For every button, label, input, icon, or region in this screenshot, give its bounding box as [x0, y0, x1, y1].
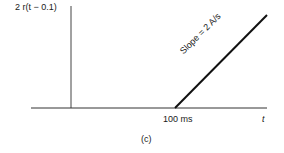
figure-caption: (c) — [141, 134, 152, 144]
y-axis-label: 2 r(t − 0.1) — [15, 2, 57, 12]
x-tick-label: 100 ms — [163, 114, 193, 124]
ramp-diagram — [0, 0, 284, 153]
x-axis-label: t — [262, 114, 265, 124]
ramp-line — [175, 15, 267, 108]
